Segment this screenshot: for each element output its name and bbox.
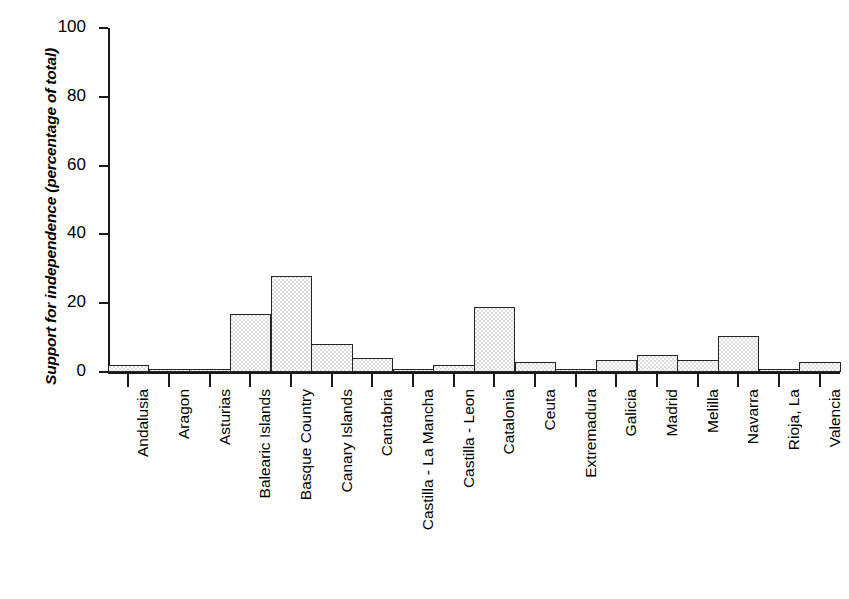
x-tick-label: Canary Islands (338, 389, 356, 492)
y-tick: 20 (99, 302, 108, 304)
x-tick (697, 374, 699, 387)
bar (352, 358, 393, 372)
bar (718, 336, 759, 372)
x-tick-label: Andalusia (134, 389, 152, 457)
x-tick-label: Basque Country (297, 389, 315, 500)
x-tick-label: Rioja, La (785, 389, 803, 450)
bar (596, 360, 637, 372)
x-tick-label: Aragon (175, 389, 193, 439)
x-tick (819, 374, 821, 387)
x-tick (249, 374, 251, 387)
bar (474, 307, 515, 372)
x-tick (127, 374, 129, 387)
bar (677, 360, 718, 372)
bar-chart: Support for independence (percentage of … (0, 0, 849, 599)
x-tick-label: Galicia (622, 389, 640, 436)
x-tick-label: Melilla (704, 389, 722, 433)
x-tick-label: Catalonia (500, 389, 518, 455)
bar (271, 276, 312, 372)
y-tick: 60 (99, 165, 108, 167)
x-tick (371, 374, 373, 387)
x-tick (453, 374, 455, 387)
y-tick-label: 0 (77, 361, 86, 381)
x-tick (778, 374, 780, 387)
x-tick (168, 374, 170, 387)
x-axis-tick-labels: AndalusiaAragonAsturiasBalearic IslandsB… (108, 389, 848, 589)
x-axis-spine (108, 372, 840, 374)
x-tick-label: Extremadura (582, 389, 600, 478)
bar (433, 365, 474, 372)
y-tick-label: 60 (67, 155, 86, 175)
bar (189, 369, 230, 372)
x-tick-label: Castilla - Leon (460, 389, 478, 488)
x-tick (209, 374, 211, 387)
x-tick (493, 374, 495, 387)
bar (108, 365, 149, 372)
x-tick (534, 374, 536, 387)
x-tick (737, 374, 739, 387)
x-tick (412, 374, 414, 387)
y-axis-spine (108, 28, 110, 374)
y-tick: 100 (99, 27, 108, 29)
x-tick (575, 374, 577, 387)
x-tick-label: Cantabria (378, 389, 396, 456)
x-tick (656, 374, 658, 387)
y-axis-label: Support for independence (percentage of … (34, 5, 68, 385)
bar (637, 355, 678, 372)
x-tick-label: Navarra (744, 389, 762, 444)
y-tick: 40 (99, 233, 108, 235)
y-tick-label: 100 (58, 17, 86, 37)
bar (799, 362, 840, 372)
x-tick (615, 374, 617, 387)
bar (393, 369, 434, 372)
x-tick-label: Madrid (663, 389, 681, 436)
bar (515, 362, 556, 372)
y-tick: 0 (99, 371, 108, 373)
y-tick-label: 40 (67, 223, 86, 243)
x-tick-label: Valencia (826, 389, 844, 447)
bar (149, 369, 190, 372)
plot-area: 020406080100 (108, 28, 840, 373)
y-tick-label: 80 (67, 86, 86, 106)
x-tick (331, 374, 333, 387)
y-tick: 80 (99, 96, 108, 98)
x-tick (290, 374, 292, 387)
x-tick-label: Ceuta (541, 389, 559, 430)
x-tick-label: Asturias (216, 389, 234, 445)
bar (311, 344, 352, 372)
bar (230, 314, 271, 372)
bar (759, 369, 800, 372)
x-tick-label: Castilla - La Mancha (419, 389, 437, 530)
bar (555, 369, 596, 372)
x-tick-label: Balearic Islands (256, 389, 274, 498)
y-tick-label: 20 (67, 292, 86, 312)
